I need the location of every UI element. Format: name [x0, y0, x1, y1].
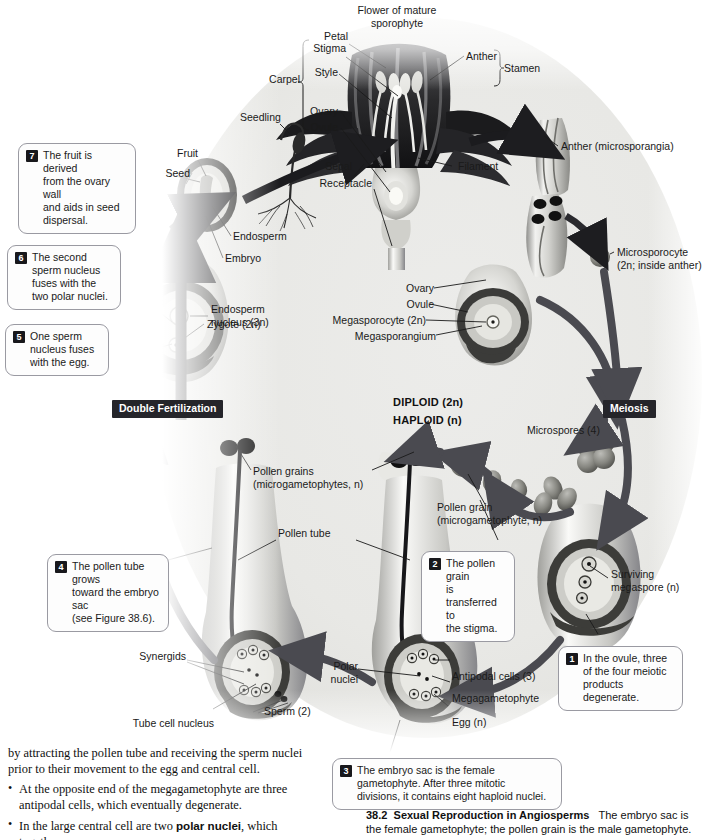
angiosperm-life-cycle-figure: Flower of mature sporophyte Petal Stigma… [0, 0, 708, 840]
callout-4-number: 4 [55, 561, 67, 573]
label-megagametophyte: Megagametophyte [452, 692, 539, 705]
label-seed: Seed [140, 167, 190, 180]
callout-3[interactable]: 3 The embryo sac is the female gametophy… [332, 758, 562, 810]
label-anther-microsporangia: Anther (microsporangia) [561, 140, 674, 153]
label-megasporangium: Megasporangium [322, 330, 436, 343]
callout-6[interactable]: 6 The second sperm nucleus fuses with th… [7, 245, 121, 310]
label-tube-cell-nucleus: Tube cell nucleus [122, 717, 214, 730]
label-fruit: Fruit [148, 147, 198, 160]
label-microsporocyte: Microsporocyte (2n; inside anther) [617, 246, 702, 271]
label-haploid: HAPLOID (n) [393, 414, 462, 426]
label-embryo: Embryo [225, 252, 261, 265]
callout-7[interactable]: 7 The fruit is derived from the ovary wa… [18, 143, 136, 234]
callout-2[interactable]: 2 The pollen grain is transferred to the… [421, 551, 515, 642]
label-microspores: Microspores (4) [527, 424, 600, 437]
callout-3-number: 3 [340, 765, 352, 777]
label-ovary-cycle: Ovary [374, 282, 434, 295]
label-synergids: Synergids [118, 650, 186, 663]
label-stigma: Stigma [288, 42, 346, 55]
label-stamen: Stamen [504, 62, 540, 75]
label-sperm: Sperm (2) [264, 705, 311, 718]
label-petal: Petal [300, 30, 348, 43]
figure-caption: 38.2 Sexual Reproduction in Angiosperms … [366, 808, 704, 836]
label-surviving-megaspore: Surviving megaspore (n) [611, 568, 679, 593]
callout-7-number: 7 [26, 150, 38, 162]
label-filament: Filament [458, 160, 498, 173]
label-endosperm: Endosperm [233, 230, 287, 243]
label-anther: Anther [466, 50, 497, 63]
label-diploid: DIPLOID (2n) [393, 396, 463, 408]
callout-5[interactable]: 5 One sperm nucleus fuses with the egg. [5, 324, 109, 376]
callout-2-text: The pollen grain is transferred to the s… [446, 557, 506, 635]
body-bullet-list: At the opposite end of the megagametophy… [8, 782, 308, 840]
label-sepal: Sepal [304, 160, 352, 173]
label-pollen-tube: Pollen tube [278, 527, 331, 540]
body-bullet-1: At the opposite end of the megagametophy… [8, 782, 308, 813]
label-pollen-grain: Pollen grain (microgametophyte, n) [437, 501, 542, 526]
label-megasporocyte: Megasporocyte (2n) [322, 314, 426, 327]
callout-1-text: In the ovule, three of the four meiotic … [583, 652, 674, 704]
banner-double-fertilization: Double Fertilization [112, 400, 223, 418]
callout-1-number: 1 [566, 653, 578, 665]
label-ovule-flower: Ovule [290, 121, 338, 134]
callout-4-text: The pollen tube grows toward the embryo … [72, 560, 160, 625]
body-text-column: by attracting the pollen tube and receiv… [8, 746, 308, 840]
caption-number: 38.2 [366, 809, 387, 821]
callout-1[interactable]: 1 In the ovule, three of the four meioti… [558, 646, 683, 711]
label-antipodal-cells: Antipodal cells (3) [452, 670, 535, 683]
label-seedling: Seedling [240, 111, 281, 124]
body-bullet-2-bold: polar nuclei [176, 819, 241, 832]
label-carpel: Carpel [248, 73, 300, 86]
body-bullet-2: In the large central cell are two polar … [8, 818, 308, 840]
label-receptacle: Receptacle [294, 177, 372, 190]
body-paragraph: by attracting the pollen tube and receiv… [8, 746, 308, 777]
label-ovule-cycle: Ovule [374, 298, 434, 311]
label-zygote: Zygote (2n) [207, 318, 261, 331]
callout-4[interactable]: 4 The pollen tube grows toward the embry… [47, 554, 169, 632]
callout-2-number: 2 [429, 558, 441, 570]
label-polar-nuclei: Polar nuclei [300, 660, 358, 685]
banner-meiosis: Meiosis [603, 400, 656, 418]
label-egg: Egg (n) [452, 716, 486, 729]
callout-5-number: 5 [13, 331, 25, 343]
caption-title: Sexual Reproduction in Angiosperms [394, 809, 590, 821]
callout-3-text: The embryo sac is the female gametophyte… [357, 764, 546, 803]
callout-6-text: The second sperm nucleus fuses with the … [32, 251, 108, 303]
label-pollen-grains: Pollen grains (microgametophytes, n) [253, 465, 363, 490]
label-ovary-flower: Ovary [290, 105, 338, 118]
label-flower-of-mature-sporophyte: Flower of mature sporophyte [332, 4, 462, 29]
callout-5-text: One sperm nucleus fuses with the egg. [30, 330, 94, 369]
body-bullet-2-pre: In the large central cell are two [19, 819, 176, 833]
callout-6-number: 6 [15, 252, 27, 264]
callout-7-text: The fruit is derived from the ovary wall… [43, 149, 127, 227]
